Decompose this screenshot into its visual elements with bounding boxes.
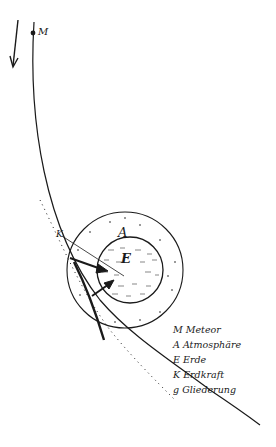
- label-earth: E: [121, 252, 131, 265]
- legend-item: M Meteor: [173, 322, 241, 337]
- direction-arrow-icon: [10, 20, 18, 67]
- label-gravity: K: [56, 230, 63, 239]
- gravity-arrows: [62, 236, 124, 340]
- legend: M Meteor A Atmosphäre E Erde K Erdkraft …: [173, 322, 241, 397]
- meteor-point: [31, 31, 36, 36]
- label-atmosphere: A: [118, 226, 127, 239]
- legend-item: K Erdkraft: [173, 367, 241, 382]
- legend-item: E Erde: [173, 352, 241, 367]
- label-meteor: M: [38, 27, 48, 37]
- legend-item: g Gliederung: [173, 382, 241, 397]
- legend-item: A Atmosphäre: [173, 337, 241, 352]
